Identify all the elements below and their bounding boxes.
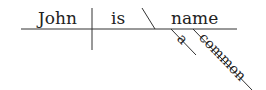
predicate-word: name bbox=[171, 10, 218, 27]
verb-word: is bbox=[111, 10, 125, 27]
predicate-slash bbox=[142, 8, 155, 29]
subject-word: John bbox=[38, 10, 77, 27]
